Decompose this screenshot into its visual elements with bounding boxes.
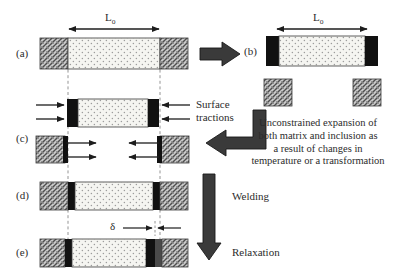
panel-c-cap-left — [67, 99, 78, 127]
panel-e-matrix-left — [40, 239, 65, 267]
panel-e-interface-right — [146, 239, 155, 267]
panel-a-assembly — [40, 29, 188, 69]
panel-b-matrix-right — [353, 79, 381, 106]
expansion-line4: temperature or a transformation — [234, 155, 402, 168]
Lo-symbol-right: L — [313, 11, 320, 23]
panel-b-cap-right — [365, 36, 378, 66]
surface-tractions-line1: Surface — [196, 98, 234, 111]
panel-label-a: (a) — [16, 47, 28, 60]
Lo-subscript-left: o — [112, 17, 116, 26]
panel-label-b: (b) — [244, 45, 257, 58]
panel-c-matrix-left — [36, 136, 65, 163]
surface-tractions-line2: tractions — [196, 111, 234, 124]
traction-arrows-matrix — [66, 143, 159, 157]
panel-d-matrix-left — [40, 182, 68, 210]
panel-c-cap-right — [148, 99, 159, 127]
panel-a-inclusion — [68, 38, 160, 69]
panel-b-inclusion — [279, 36, 365, 66]
block-arrow-down-icon — [197, 174, 221, 260]
expansion-line1: Unconstrained expansion of — [234, 117, 402, 130]
relaxation-label: Relaxation — [232, 246, 280, 259]
misfit-label-delta: δ — [110, 220, 115, 233]
panel-c-inclusion — [78, 99, 148, 127]
panel-e-misfit-band — [155, 239, 162, 267]
panel-b-matrix-left — [264, 79, 292, 106]
panel-e-matrix-right — [162, 239, 188, 267]
panel-d-assembly — [40, 182, 188, 210]
panel-label-d: (d) — [16, 189, 29, 202]
panel-d-interface-left — [68, 182, 75, 210]
panel-label-c: (c) — [16, 132, 28, 145]
welding-label: Welding — [232, 190, 269, 203]
panel-e-interface-left — [65, 239, 72, 267]
Lo-symbol-left: L — [105, 11, 112, 23]
dimension-label-Lo-right: Lo — [313, 11, 323, 27]
unconstrained-expansion-note: Unconstrained expansion of both matrix a… — [234, 117, 402, 168]
dimension-label-Lo-left: Lo — [105, 11, 115, 27]
expansion-line2: both matrix and inclusion as — [234, 130, 402, 143]
panel-b-assembly — [264, 29, 381, 106]
surface-tractions-label: Surface tractions — [196, 98, 234, 124]
panel-c-edge-left — [63, 136, 68, 163]
panel-a-matrix-left — [40, 38, 68, 69]
figure-canvas: (a) (b) (c) (d) (e) Lo Lo δ Surface trac… — [0, 0, 404, 277]
panel-label-e: (e) — [16, 246, 28, 259]
panel-d-matrix-right — [160, 182, 188, 210]
panel-d-interface-right — [153, 182, 160, 210]
panel-b-cap-left — [266, 36, 279, 66]
panel-d-inclusion — [75, 182, 153, 210]
panel-c-edge-right — [157, 136, 162, 163]
panel-a-matrix-right — [160, 38, 188, 69]
panel-c-matrix-right — [160, 136, 189, 163]
expansion-line3: a result of changes in — [234, 143, 402, 156]
block-arrow-right-icon — [200, 42, 240, 66]
panel-e-inclusion — [72, 239, 146, 267]
panel-c-assembly — [36, 99, 190, 163]
Lo-subscript-right: o — [320, 17, 324, 26]
